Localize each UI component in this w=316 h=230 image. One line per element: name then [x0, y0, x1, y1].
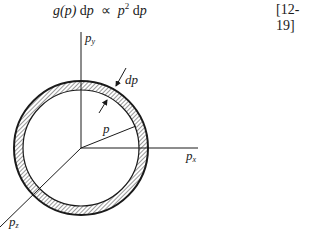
momentum-space-diagram: py px pz p dp: [0, 0, 316, 230]
radius-label: p: [102, 121, 110, 136]
dp-inner-arrow: [99, 100, 107, 113]
pz-axis-label: pz: [8, 214, 20, 230]
shell-thickness-label: dp: [125, 72, 139, 87]
px-axis-label: px: [185, 148, 197, 164]
py-axis-label: py: [84, 30, 96, 46]
